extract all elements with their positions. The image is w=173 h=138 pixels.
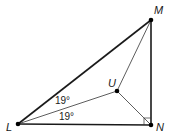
geometry-diagram: M L N U 19° 19° (0, 0, 173, 138)
angle-label-upper: 19° (55, 95, 70, 106)
point-L (16, 122, 21, 127)
label-M: M (154, 4, 164, 16)
label-U: U (108, 77, 116, 89)
segment-MU (117, 20, 151, 91)
label-N: N (156, 121, 164, 133)
segment-NU (117, 91, 151, 125)
point-N (149, 123, 154, 128)
angle-label-lower: 19° (59, 111, 74, 122)
label-L: L (6, 121, 12, 133)
point-M (149, 18, 154, 23)
segment-LN (18, 124, 151, 125)
segment-LM (18, 20, 151, 124)
point-U (115, 89, 120, 94)
